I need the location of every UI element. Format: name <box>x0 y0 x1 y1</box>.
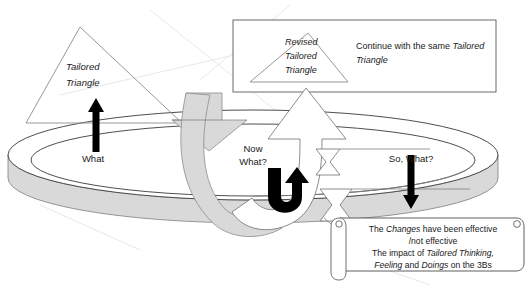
left-triangle-shape <box>26 27 182 123</box>
left-tailored-triangle: Tailored Triangle <box>26 27 182 123</box>
revised-triangle-label-line1: Revised <box>285 37 319 47</box>
scroll-line-4: Feeling and Doings on the 3Bs <box>374 260 492 270</box>
top-box-text-italic-2: Triangle <box>356 55 388 65</box>
scroll-line-3: The impact of Tailored Thinking, <box>372 248 494 258</box>
scroll-line3-b: Tailored Thinking, <box>426 248 494 258</box>
left-triangle-label-line2: Triangle <box>66 77 100 88</box>
tailored-triangle-diagram: Tailored Triangle Revised Tailored Trian… <box>0 0 530 297</box>
scroll-line4-a: Feeling <box>374 260 402 270</box>
scroll-line4-d: on the 3Bs <box>448 260 491 270</box>
scroll-line3-a: The impact of <box>372 248 426 258</box>
scroll-line4-c: Doings <box>422 260 449 270</box>
scroll-right-curl-knob <box>514 221 521 228</box>
revised-triangle-label-line2: Tailored <box>285 51 318 61</box>
revised-triangle-label-line3: Triangle <box>285 65 317 75</box>
top-box-text-italic-1: Tailored <box>453 41 486 51</box>
label-now-what-line1: Now <box>243 143 262 154</box>
label-so-what: So, What? <box>389 153 433 164</box>
scroll-line4-b: and <box>402 260 421 270</box>
top-box-text-line1: Continue with the same Tailored <box>356 41 485 51</box>
left-triangle-label-line1: Tailored <box>66 61 100 72</box>
outcome-scroll-box: The Changes have been effective /not eff… <box>324 218 524 280</box>
scroll-line1-b: Changes <box>386 224 421 234</box>
label-now-what-line2: What? <box>239 156 266 167</box>
scroll-left-curl-knob <box>336 221 342 227</box>
top-outcome-box: Revised Tailored Triangle Continue with … <box>233 20 496 92</box>
label-what: What <box>82 153 105 164</box>
scroll-line1-c: have been effective <box>420 224 497 234</box>
top-box-text-plain: Continue with the same <box>356 41 453 51</box>
scroll-line-2: /not effective <box>409 236 458 246</box>
diagram-canvas: Tailored Triangle Revised Tailored Trian… <box>0 0 530 297</box>
scroll-line-1: The Changes have been effective <box>369 224 498 234</box>
scroll-line1-a: The <box>369 224 386 234</box>
